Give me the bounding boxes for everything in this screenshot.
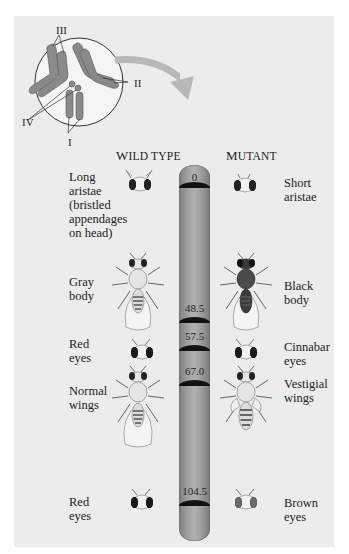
- locus-band: [179, 317, 210, 323]
- chromosome-2-map: 0 48.5 57.5 67.0 104.5: [179, 165, 210, 541]
- label-III: III: [56, 24, 67, 36]
- fly-head-red-eyes-icon: [127, 488, 157, 512]
- mutant-trait-label: Shortaristae: [284, 176, 317, 204]
- wild-trait-label: Longaristae(bristledappendageson head): [69, 170, 127, 240]
- locus-band: [179, 500, 210, 506]
- locus-position: 104.5: [179, 485, 210, 497]
- wild-trait-label: Redeyes: [69, 337, 91, 365]
- mutant-trait-label: Cinnabareyes: [284, 340, 330, 368]
- locus-band: [179, 380, 210, 386]
- label-II: II: [134, 77, 141, 89]
- wild-trait-label: Redeyes: [69, 495, 91, 523]
- mutant-trait-label: Blackbody: [284, 279, 313, 307]
- fly-normal-wings-icon: [108, 366, 168, 448]
- fly-gray-body-icon: [108, 253, 168, 333]
- locus-position: 57.5: [179, 330, 210, 342]
- fly-head-short-aristae-icon: [230, 172, 260, 194]
- karyotype-inset: [20, 20, 180, 155]
- mutant-trait-label: Browneyes: [284, 496, 318, 524]
- locus-position: 48.5: [179, 302, 210, 314]
- label-I: I: [68, 136, 72, 148]
- locus-position: 67.0: [179, 365, 210, 377]
- wild-trait-label: Graybody: [69, 275, 94, 303]
- fly-head-cinnabar-eyes-icon: [231, 338, 261, 362]
- wild-trait-label: Normalwings: [69, 384, 107, 412]
- arrow-head-icon: [170, 70, 220, 110]
- fly-vestigial-wings-icon: [216, 366, 276, 444]
- fly-head-red-eyes-icon: [127, 338, 157, 362]
- fly-black-body-icon: [216, 253, 276, 333]
- header-wild-type: WILD TYPE: [116, 148, 181, 164]
- fly-head-brown-eyes-icon: [231, 488, 261, 512]
- locus-band: [179, 182, 210, 188]
- mutant-trait-label: Vestigialwings: [284, 377, 328, 405]
- fly-head-long-aristae-icon: [125, 170, 155, 194]
- label-IV: IV: [22, 116, 34, 128]
- header-mutant: MUTANT: [226, 148, 277, 164]
- locus-band: [179, 345, 210, 351]
